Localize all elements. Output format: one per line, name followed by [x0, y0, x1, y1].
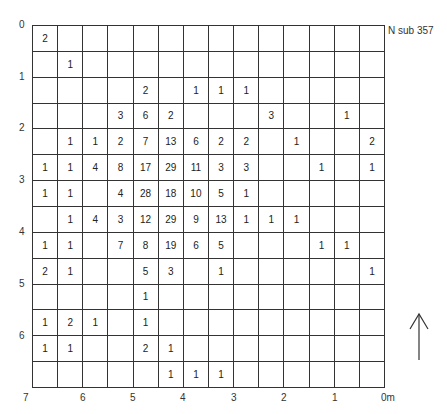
grid-cell — [184, 52, 209, 78]
grid-cell: 1 — [360, 155, 385, 181]
grid-cell: 7 — [108, 233, 133, 259]
grid-cell: 5 — [134, 259, 159, 285]
count-grid: 2121113623111271362212114817291133111142… — [32, 25, 385, 388]
grid-cell: 1 — [58, 336, 83, 362]
grid-cell — [310, 207, 335, 233]
grid-cell: 28 — [134, 181, 159, 207]
grid-cell: 1 — [234, 78, 259, 104]
grid-cell: 2 — [33, 259, 58, 285]
grid-cell — [335, 26, 360, 52]
y-label: 2 — [19, 122, 25, 133]
grid-cell: 1 — [184, 78, 209, 104]
y-label: 0 — [19, 19, 25, 30]
grid-cell — [259, 336, 284, 362]
grid-cell — [108, 362, 133, 388]
grid-cell — [234, 26, 259, 52]
grid-cell: 13 — [159, 129, 184, 155]
grid-cell — [310, 181, 335, 207]
grid-cell — [209, 52, 234, 78]
grid-cell — [83, 26, 108, 52]
grid-cell: 1 — [33, 181, 58, 207]
grid-cell: 1 — [58, 155, 83, 181]
grid-cell: 1 — [284, 129, 309, 155]
grid-cell — [360, 362, 385, 388]
grid-cell — [284, 362, 309, 388]
grid-cell — [360, 78, 385, 104]
grid-cell — [335, 155, 360, 181]
grid-cell: 1 — [33, 310, 58, 336]
grid-cell — [159, 52, 184, 78]
grid-cell — [310, 104, 335, 130]
y-label: 1 — [19, 71, 25, 82]
grid-cell — [184, 285, 209, 311]
x-label: 5 — [130, 392, 136, 403]
grid-cell: 5 — [209, 181, 234, 207]
grid-cell — [184, 310, 209, 336]
grid-cell — [234, 104, 259, 130]
north-arrow-icon — [407, 312, 431, 362]
grid-cell: 1 — [159, 362, 184, 388]
grid-cell — [335, 310, 360, 336]
grid-cell: 18 — [159, 181, 184, 207]
grid-cell: 1 — [83, 129, 108, 155]
grid-cell: 1 — [134, 285, 159, 311]
grid-cell — [284, 310, 309, 336]
grid-cell — [335, 336, 360, 362]
grid-cell — [335, 259, 360, 285]
grid-cell — [159, 26, 184, 52]
grid-cell — [234, 336, 259, 362]
grid-cell: 2 — [33, 26, 58, 52]
grid-cell — [360, 336, 385, 362]
grid-cell — [33, 78, 58, 104]
grid-cell: 4 — [108, 181, 133, 207]
grid-cell — [360, 104, 385, 130]
grid-cell: 19 — [159, 233, 184, 259]
grid-cell: 17 — [134, 155, 159, 181]
grid-cell — [184, 104, 209, 130]
grid-cell: 8 — [134, 233, 159, 259]
grid-cell: 6 — [184, 129, 209, 155]
grid-cell — [234, 310, 259, 336]
grid-cell — [259, 78, 284, 104]
grid-cell — [284, 336, 309, 362]
grid-cell — [184, 336, 209, 362]
grid-cell: 2 — [58, 310, 83, 336]
grid-cell — [310, 362, 335, 388]
grid-cell — [259, 155, 284, 181]
grid-cell — [83, 52, 108, 78]
grid-cell — [259, 181, 284, 207]
grid-cell: 2 — [159, 104, 184, 130]
grid-cell: 1 — [33, 155, 58, 181]
grid-cell — [209, 285, 234, 311]
grid-cell: 1 — [335, 233, 360, 259]
grid-cell — [259, 362, 284, 388]
grid-cell — [108, 310, 133, 336]
grid-cell — [234, 52, 259, 78]
grid-cell — [259, 310, 284, 336]
grid-cell: 2 — [234, 129, 259, 155]
grid-cell: 7 — [134, 129, 159, 155]
grid-cell — [310, 129, 335, 155]
grid-cell — [83, 259, 108, 285]
grid-cell — [335, 52, 360, 78]
grid-cell: 1 — [310, 155, 335, 181]
grid-cell — [259, 285, 284, 311]
grid-cell — [58, 285, 83, 311]
grid-cell: 12 — [134, 207, 159, 233]
grid-cell — [284, 233, 309, 259]
grid-cell: 1 — [58, 181, 83, 207]
grid-cell: 1 — [134, 310, 159, 336]
grid-cell — [159, 78, 184, 104]
grid-cell — [284, 78, 309, 104]
grid-cell — [310, 259, 335, 285]
grid-cell — [83, 285, 108, 311]
y-label: 3 — [19, 174, 25, 185]
grid-cell — [108, 26, 133, 52]
grid-cell — [108, 336, 133, 362]
grid-cell: 1 — [234, 207, 259, 233]
y-label: 6 — [19, 330, 25, 341]
grid-cell: 2 — [108, 129, 133, 155]
grid-cell: 4 — [83, 155, 108, 181]
grid-cell — [259, 52, 284, 78]
grid-cell — [134, 26, 159, 52]
